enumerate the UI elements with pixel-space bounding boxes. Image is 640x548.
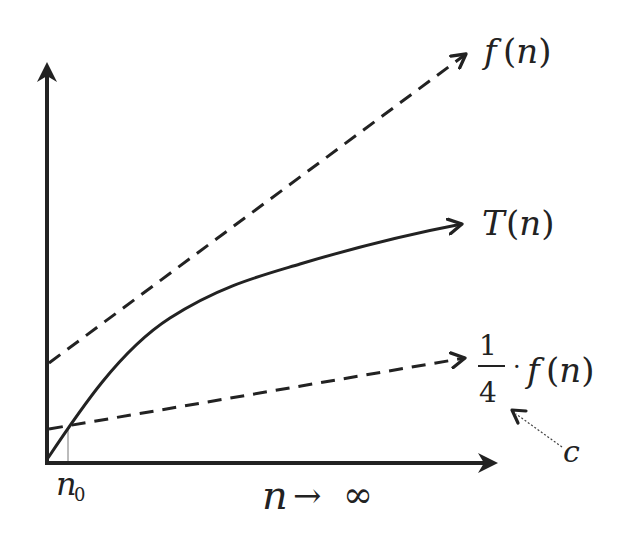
label-cf: 1 4 · f (n) — [478, 329, 594, 409]
label-T: T (n) — [482, 203, 554, 243]
axes — [45, 66, 494, 463]
x-axis-infinity: ∞ — [343, 474, 373, 515]
label-n0-sub: 0 — [74, 484, 85, 505]
fraction-denominator: 4 — [479, 376, 497, 409]
curve-f-upper-bound — [49, 54, 466, 363]
curve-cf-lower-bound — [49, 358, 465, 429]
label-cf-fn: f — [524, 350, 545, 390]
curve-T-running-time — [48, 224, 462, 458]
label-T-fn: T — [482, 203, 507, 243]
label-f: f (n) — [481, 31, 551, 71]
label-f-fn: f — [481, 31, 502, 71]
label-n0: n 0 — [56, 465, 85, 505]
label-f-arg: (n) — [503, 31, 551, 71]
x-axis-var: n — [262, 472, 288, 518]
multiply-dot: · — [513, 353, 521, 381]
label-cf-arg: (n) — [546, 350, 594, 390]
label-T-arg: (n) — [506, 203, 554, 243]
x-axis-label: n → ∞ — [262, 472, 373, 518]
label-c: c — [563, 434, 580, 469]
c-pointer-arrow — [516, 414, 562, 447]
x-axis-arrow: → — [293, 475, 322, 515]
fraction-numerator: 1 — [479, 329, 497, 362]
diagram-canvas: f (n) T (n) 1 4 · f (n) c n 0 n → ∞ — [0, 0, 640, 548]
